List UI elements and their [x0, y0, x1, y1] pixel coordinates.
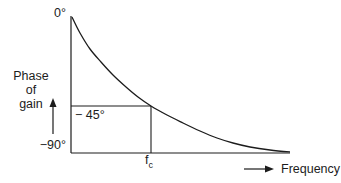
frequency-arrow-head-icon	[265, 166, 274, 173]
y-axis-title: Phase of gain	[6, 69, 56, 111]
x-axis-title: Frequency	[281, 162, 340, 176]
phase-curve	[72, 17, 290, 152]
y-tick-minus90-label: −90°	[32, 138, 66, 152]
x-tick-fc-label: fc	[145, 153, 153, 172]
y-tick-minus45-label: − 45°	[75, 108, 105, 122]
fc-subscript: c	[148, 160, 153, 170]
y-tick-zero-label: 0°	[44, 6, 66, 20]
phase-response-figure: 0° Phase of gain − 45° −90° fc Frequency	[0, 0, 341, 183]
